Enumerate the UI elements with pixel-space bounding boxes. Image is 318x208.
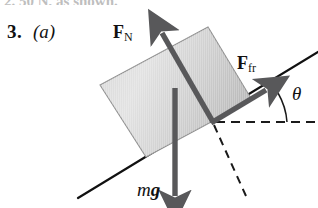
normal-force-subscript: N: [124, 30, 133, 44]
part-label: (a): [33, 22, 55, 41]
gravity-symbol: g: [151, 179, 161, 200]
angle-arc: [278, 93, 287, 122]
inclined-plane-figure: 2. 50 N, as shown.: [0, 0, 318, 208]
perpendicular-dashed-line: [214, 125, 246, 196]
mass-symbol: m: [137, 179, 151, 200]
incline-angle-label: θ: [292, 84, 301, 103]
friction-force-label: Ffr: [237, 54, 256, 74]
friction-force-symbol: F: [237, 53, 248, 73]
friction-force-subscript: fr: [248, 61, 256, 75]
normal-force-label: FN: [113, 23, 133, 43]
weight-label: mg: [137, 180, 160, 199]
normal-force-symbol: F: [113, 22, 124, 42]
problem-number: 3.: [7, 22, 22, 41]
